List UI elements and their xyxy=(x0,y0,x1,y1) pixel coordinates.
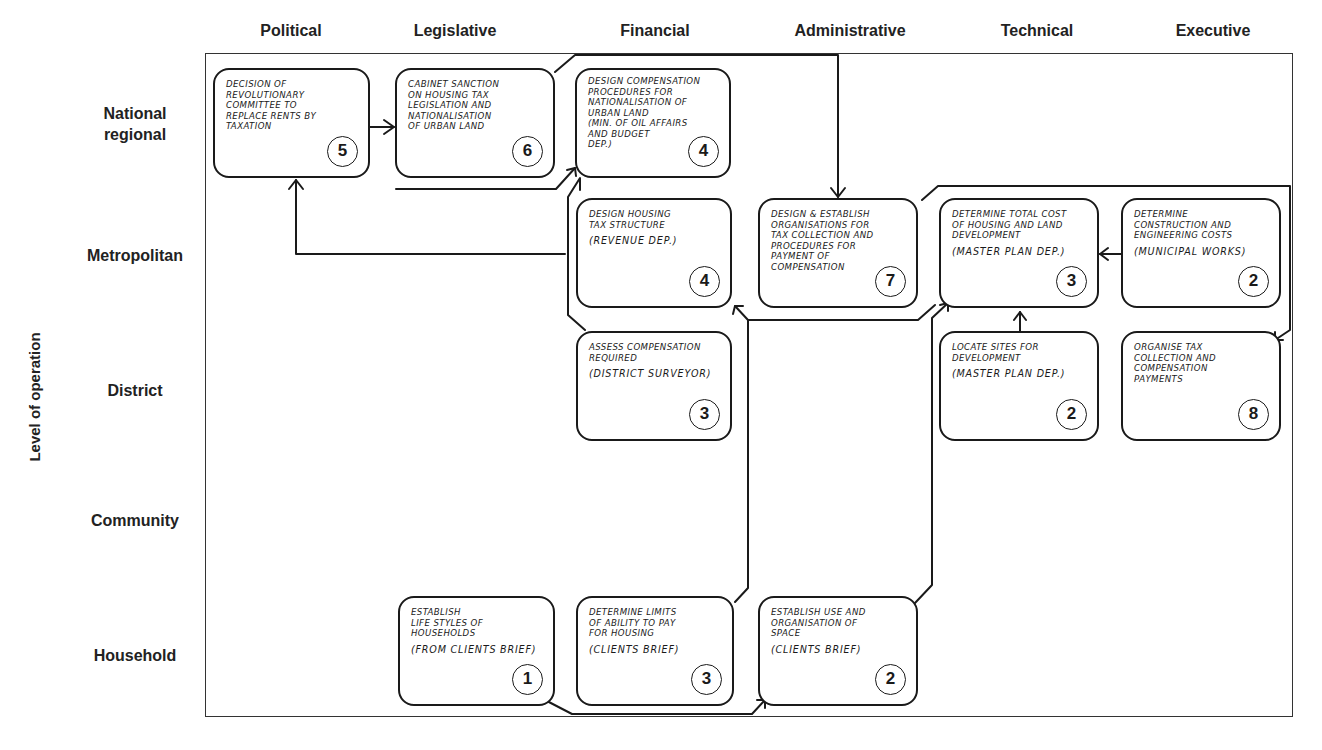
task-text: organisation of xyxy=(771,618,906,629)
task-box-executive-metropolitan[interactable]: Determine construction and engineering c… xyxy=(1121,198,1281,308)
task-box-political-national[interactable]: Decision of revolutionary committee to r… xyxy=(213,68,370,178)
department-note: (Master plan dep.) xyxy=(952,369,1087,380)
task-text: Determine total cost xyxy=(952,209,1087,220)
step-number-badge: 1 xyxy=(512,664,543,695)
column-header-political: Political xyxy=(216,22,366,40)
task-text: Assess compensation xyxy=(589,342,720,353)
task-text: legislation and xyxy=(408,100,543,111)
task-text: Design & establish xyxy=(771,209,906,220)
task-text: Decision of xyxy=(226,79,358,90)
task-text: urban land xyxy=(588,108,719,119)
column-header-financial: Financial xyxy=(580,22,730,40)
task-box-technical-district[interactable]: Locate sites for development (Master pla… xyxy=(939,331,1099,441)
task-text: for housing xyxy=(589,628,722,639)
task-text: Design housing xyxy=(589,209,720,220)
task-box-legislative-household[interactable]: Establish life styles of households (Fro… xyxy=(398,596,555,706)
task-box-financial-district[interactable]: Assess compensation required (District s… xyxy=(576,331,732,441)
row-header-household: Household xyxy=(60,645,210,666)
task-box-technical-metropolitan[interactable]: Determine total cost of housing and land… xyxy=(939,198,1099,308)
step-number-badge: 3 xyxy=(689,399,720,430)
row-header-district: District xyxy=(60,380,210,401)
task-text: payments xyxy=(1134,374,1269,385)
task-text: compensation xyxy=(1134,363,1269,374)
task-text: procedures for xyxy=(588,87,719,98)
task-text: payment of xyxy=(771,251,906,262)
task-text: engineering costs xyxy=(1134,230,1269,241)
y-axis-label: Level of operation xyxy=(26,297,43,497)
department-note: (District surveyor) xyxy=(589,369,720,380)
step-number-badge: 3 xyxy=(1056,266,1087,297)
task-text: replace rents by xyxy=(226,111,358,122)
task-text: Determine xyxy=(1134,209,1269,220)
task-text: life styles of xyxy=(411,618,543,629)
step-number-badge: 2 xyxy=(1238,266,1269,297)
task-text: construction and xyxy=(1134,220,1269,231)
task-text: tax structure xyxy=(589,220,720,231)
department-note: (Master plan dep.) xyxy=(952,247,1087,258)
task-text: collection and xyxy=(1134,353,1269,364)
task-text: Establish use and xyxy=(771,607,906,618)
department-note: (Clients brief) xyxy=(589,645,722,656)
task-text: Organise tax xyxy=(1134,342,1269,353)
task-text: Design compensation xyxy=(588,76,719,87)
department-note: (Clients brief) xyxy=(771,645,906,656)
task-text: taxation xyxy=(226,121,358,132)
task-text: of housing and land xyxy=(952,220,1087,231)
task-text: tax collection and xyxy=(771,230,906,241)
task-text: revolutionary xyxy=(226,90,358,101)
task-text: required xyxy=(589,353,720,364)
step-number-badge: 2 xyxy=(875,664,906,695)
task-box-financial-metropolitan[interactable]: Design housing tax structure (Revenue de… xyxy=(576,198,732,308)
task-box-financial-national[interactable]: Design compensation procedures for natio… xyxy=(575,68,731,178)
task-text: (Min. of oil affairs xyxy=(588,118,719,129)
column-header-technical: Technical xyxy=(962,22,1112,40)
task-box-executive-district[interactable]: Organise tax collection and compensation… xyxy=(1121,331,1281,441)
step-number-badge: 4 xyxy=(689,266,720,297)
task-text: space xyxy=(771,628,906,639)
task-text: nationalisation of xyxy=(588,97,719,108)
department-note: (Municipal works) xyxy=(1134,247,1269,258)
task-text: development xyxy=(952,353,1087,364)
task-text: development xyxy=(952,230,1087,241)
task-box-administrative-household[interactable]: Establish use and organisation of space … xyxy=(758,596,918,706)
task-text: of ability to pay xyxy=(589,618,722,629)
department-note: (From clients brief) xyxy=(411,645,543,656)
task-box-legislative-national[interactable]: Cabinet sanction on housing tax legislat… xyxy=(395,68,555,178)
column-header-administrative: Administrative xyxy=(775,22,925,40)
task-text: Cabinet sanction xyxy=(408,79,543,90)
column-header-executive: Executive xyxy=(1138,22,1288,40)
department-note: (Revenue dep.) xyxy=(589,236,720,247)
step-number-badge: 8 xyxy=(1238,399,1269,430)
step-number-badge: 4 xyxy=(688,136,719,167)
task-text: on housing tax xyxy=(408,90,543,101)
task-text: committee to xyxy=(226,100,358,111)
task-box-administrative-metropolitan[interactable]: Design & establish organisations for tax… xyxy=(758,198,918,308)
task-text: Determine limits xyxy=(589,607,722,618)
step-number-badge: 6 xyxy=(512,136,543,167)
row-header-community: Community xyxy=(60,510,210,531)
task-text: Locate sites for xyxy=(952,342,1087,353)
task-text: Establish xyxy=(411,607,543,618)
task-text: of urban land xyxy=(408,121,543,132)
task-text: households xyxy=(411,628,543,639)
row-header-national-regional: National regional xyxy=(60,103,210,145)
column-header-legislative: Legislative xyxy=(380,22,530,40)
task-text: nationalisation xyxy=(408,111,543,122)
step-number-badge: 3 xyxy=(691,664,722,695)
step-number-badge: 7 xyxy=(875,266,906,297)
task-text: organisations for xyxy=(771,220,906,231)
step-number-badge: 5 xyxy=(327,136,358,167)
task-text: procedures for xyxy=(771,241,906,252)
step-number-badge: 2 xyxy=(1056,399,1087,430)
task-box-financial-household[interactable]: Determine limits of ability to pay for h… xyxy=(576,596,734,706)
row-header-metropolitan: Metropolitan xyxy=(60,245,210,266)
